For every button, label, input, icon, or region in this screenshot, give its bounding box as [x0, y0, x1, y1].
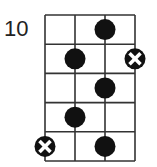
- note-dot-icon: [95, 136, 116, 157]
- note-dot-icon: [65, 48, 86, 69]
- note-dot-icon: [95, 19, 116, 40]
- note-dot-icon: [95, 78, 116, 99]
- fretboard-grid: [0, 0, 157, 167]
- note-dot-icon: [65, 107, 86, 128]
